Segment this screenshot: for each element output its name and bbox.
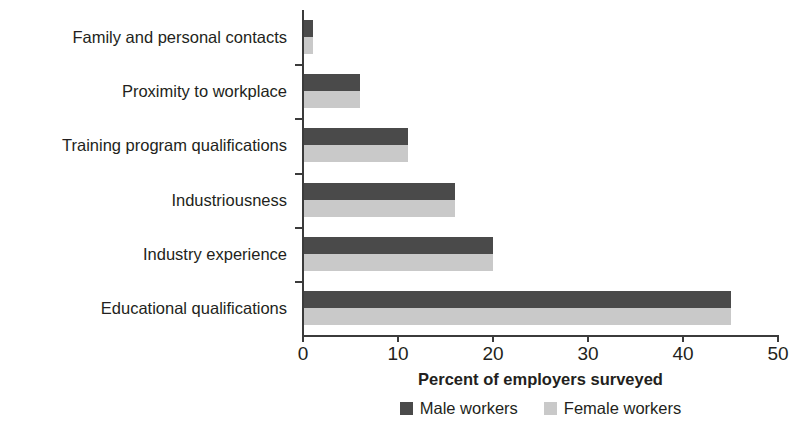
legend-swatch-icon — [400, 402, 413, 415]
legend-item: Male workers — [400, 400, 518, 417]
x-axis-tick-label: 10 — [387, 344, 408, 363]
bar-group — [303, 128, 778, 162]
x-axis-tick — [777, 335, 779, 342]
category-label: Proximity to workplace — [122, 83, 287, 100]
x-axis-tick-label: 20 — [482, 344, 503, 363]
y-axis-tick — [295, 227, 303, 229]
x-axis-tick-label: 30 — [577, 344, 598, 363]
bar-male — [303, 183, 455, 200]
bar-female — [303, 145, 408, 162]
bar-male — [303, 291, 731, 308]
x-axis-line — [303, 335, 778, 337]
legend-swatch-icon — [544, 402, 557, 415]
bar-male — [303, 74, 360, 91]
bar-female — [303, 37, 313, 54]
bar-chart: Family and personal contactsProximity to… — [0, 0, 797, 432]
x-axis-tick-label: 40 — [672, 344, 693, 363]
x-axis-tick-label: 0 — [298, 344, 309, 363]
x-axis-tick — [302, 335, 304, 342]
y-axis-tick — [295, 118, 303, 120]
y-axis-tick — [295, 281, 303, 283]
category-label: Family and personal contacts — [72, 29, 287, 46]
x-axis-title: Percent of employers surveyed — [303, 370, 778, 389]
category-label: Industriousness — [171, 192, 287, 209]
bar-female — [303, 200, 455, 217]
bar-female — [303, 308, 731, 325]
category-label: Training program qualifications — [62, 137, 287, 154]
bar-female — [303, 91, 360, 108]
y-axis-tick — [295, 64, 303, 66]
bar-group — [303, 20, 778, 54]
bar-group — [303, 291, 778, 325]
legend-item: Female workers — [544, 400, 681, 417]
category-label: Industry experience — [143, 246, 287, 263]
x-axis-tick-label: 50 — [767, 344, 788, 363]
x-axis-tick — [587, 335, 589, 342]
bar-male — [303, 128, 408, 145]
x-axis-tick — [492, 335, 494, 342]
bar-male — [303, 237, 493, 254]
legend-label: Male workers — [420, 400, 518, 417]
y-axis-tick — [295, 173, 303, 175]
bar-group — [303, 183, 778, 217]
bar-female — [303, 254, 493, 271]
x-axis-tick — [397, 335, 399, 342]
legend-label: Female workers — [564, 400, 681, 417]
bar-male — [303, 20, 313, 37]
bar-group — [303, 237, 778, 271]
plot-area — [303, 10, 778, 335]
category-axis-labels: Family and personal contactsProximity to… — [0, 10, 295, 335]
x-axis-tick — [682, 335, 684, 342]
chart-legend: Male workersFemale workers — [303, 400, 778, 417]
category-label: Educational qualifications — [101, 300, 287, 317]
bar-group — [303, 74, 778, 108]
